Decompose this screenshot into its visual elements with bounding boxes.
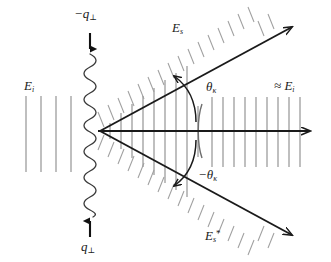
label-angle-positive: θκ bbox=[206, 80, 216, 95]
label-momentum-down: −q⊥ bbox=[74, 7, 97, 22]
incident-wavefront-lines bbox=[26, 96, 71, 172]
label-scattered-field-conjugate: Es* bbox=[205, 229, 221, 244]
angle-arc-negative bbox=[174, 140, 196, 186]
label-momentum-up: q⊥ bbox=[81, 240, 95, 255]
diagram-vector-layer bbox=[0, 0, 331, 262]
label-scattered-field: Es bbox=[172, 21, 183, 36]
label-angle-negative: −θκ bbox=[198, 168, 217, 183]
transmitted-wavefront-lines bbox=[212, 97, 300, 167]
upper-scattered-hatch-marks bbox=[98, 7, 274, 127]
vertical-sinusoid-wave bbox=[84, 54, 96, 217]
label-transmitted-field: ≈ Ei bbox=[274, 79, 295, 94]
lower-scattered-hatch-marks bbox=[98, 135, 274, 255]
label-incident-field: Ei bbox=[24, 79, 34, 94]
physics-diagram-canvas: Ei −q⊥ q⊥ Es Es* θκ −θκ ≈ Ei bbox=[0, 0, 331, 262]
angle-arc-positive bbox=[174, 76, 196, 122]
